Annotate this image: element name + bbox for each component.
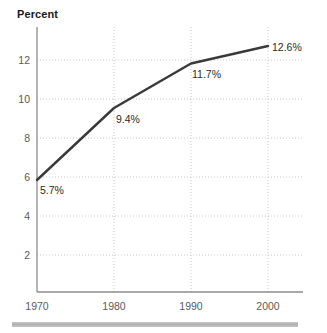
x-tick-label-1970: 1970 xyxy=(17,300,57,312)
x-tick-label-2000: 2000 xyxy=(248,300,288,312)
x-tick-label-1980: 1980 xyxy=(94,300,134,312)
y-tick-label-4: 4 xyxy=(6,210,30,222)
data-label-1990: 11.7% xyxy=(192,68,221,80)
data-label-1980: 9.4% xyxy=(116,113,140,125)
y-tick-label-2: 2 xyxy=(6,249,30,261)
chart-figure: Percent 12 10 8 6 4 2 1970 1980 1990 2 xyxy=(0,0,327,333)
y-tick-label-12: 12 xyxy=(6,54,30,66)
vertical-gridlines xyxy=(114,27,268,292)
y-tick-label-8: 8 xyxy=(6,132,30,144)
footer-rule xyxy=(12,322,298,327)
x-tick-label-1990: 1990 xyxy=(171,300,211,312)
data-label-2000: 12.6% xyxy=(272,41,302,53)
y-tick-label-10: 10 xyxy=(6,93,30,105)
data-label-1970: 5.7% xyxy=(40,184,64,196)
data-series-line xyxy=(37,46,268,180)
y-tick-label-6: 6 xyxy=(6,171,30,183)
horizontal-gridlines xyxy=(37,60,303,255)
